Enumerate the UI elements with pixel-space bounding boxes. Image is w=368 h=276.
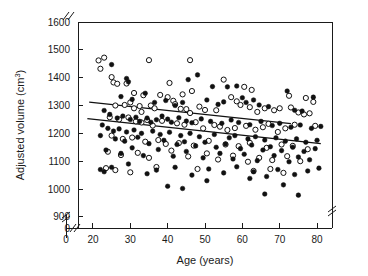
data-point <box>294 137 299 142</box>
data-point <box>177 115 182 120</box>
data-point <box>106 126 111 131</box>
data-point <box>98 133 103 138</box>
data-point <box>216 102 221 107</box>
x-tick-label: 60 <box>237 234 249 245</box>
data-point <box>281 183 286 188</box>
data-point <box>206 167 211 172</box>
y-tick-label: 1100 <box>48 156 70 167</box>
chart-canvas: 09001000110012001300140015001600 0203040… <box>0 0 368 276</box>
data-point <box>169 120 174 125</box>
data-point <box>165 184 170 189</box>
y-tick-label: 0 <box>64 223 70 234</box>
data-point <box>221 171 226 176</box>
data-point <box>109 165 114 170</box>
data-point <box>190 173 195 178</box>
data-point <box>111 129 116 134</box>
data-point <box>135 150 140 155</box>
data-point <box>130 97 135 102</box>
data-point <box>130 146 135 151</box>
data-point <box>199 117 204 122</box>
y-axis-title-base: Adjusted volume (cm <box>14 78 26 181</box>
y-tick-label: 1600 <box>48 17 71 28</box>
y-tick-label: 900 <box>53 211 70 222</box>
data-point <box>255 158 260 163</box>
data-point <box>201 156 206 161</box>
data-point <box>255 109 260 114</box>
y-tick-label: 1400 <box>48 72 71 83</box>
data-point <box>128 117 133 122</box>
x-tick-label: 70 <box>274 234 286 245</box>
data-point <box>182 139 187 144</box>
data-point <box>156 147 161 152</box>
data-point <box>285 154 290 159</box>
data-point <box>233 133 238 138</box>
data-point <box>249 143 254 148</box>
data-point <box>268 166 273 171</box>
data-point <box>167 80 172 85</box>
y-tick-label: 1000 <box>48 184 71 195</box>
data-point <box>220 121 225 126</box>
data-point <box>276 167 281 172</box>
data-point <box>146 155 151 160</box>
data-point <box>150 129 155 134</box>
data-point <box>234 84 239 89</box>
data-point <box>98 66 103 71</box>
x-tick-label: 80 <box>311 234 323 245</box>
data-point <box>305 169 310 174</box>
data-point <box>149 120 154 125</box>
data-point <box>221 77 226 82</box>
data-point <box>180 92 185 97</box>
data-point <box>109 62 114 67</box>
data-point <box>102 169 107 174</box>
data-point <box>304 140 309 145</box>
data-point <box>242 84 247 89</box>
data-point <box>160 114 165 119</box>
y-tick-label: 1500 <box>48 44 71 55</box>
data-point <box>290 145 295 150</box>
data-point <box>122 139 127 144</box>
y-tick-label: 1300 <box>48 100 71 111</box>
data-point <box>173 103 178 108</box>
x-axis-title: Age (years) <box>177 254 234 266</box>
data-point <box>253 127 258 132</box>
x-tick-label: 20 <box>87 234 99 245</box>
data-point <box>262 192 267 197</box>
data-point <box>281 170 286 175</box>
data-point <box>189 88 194 93</box>
data-point <box>277 121 282 126</box>
data-point <box>292 108 297 113</box>
data-point <box>311 95 316 100</box>
data-point <box>210 84 215 89</box>
data-point <box>261 148 266 153</box>
data-point <box>289 125 294 130</box>
data-point <box>285 89 290 94</box>
data-point <box>214 108 219 113</box>
data-point <box>109 75 114 80</box>
data-point <box>236 120 241 125</box>
data-point <box>317 166 322 171</box>
data-point <box>180 100 185 105</box>
data-point <box>174 121 179 126</box>
data-point <box>131 90 136 95</box>
data-point <box>193 144 198 149</box>
data-point <box>152 106 157 111</box>
data-point <box>248 176 253 181</box>
data-point <box>212 132 217 137</box>
data-point <box>287 159 292 164</box>
data-point <box>204 151 209 156</box>
data-point <box>132 128 137 133</box>
data-point <box>315 138 320 143</box>
data-point <box>186 154 191 159</box>
data-point <box>119 94 124 99</box>
data-point <box>251 98 256 103</box>
data-point <box>274 136 279 141</box>
data-point <box>180 186 185 191</box>
data-point <box>279 148 284 153</box>
data-point <box>117 127 122 132</box>
data-point <box>184 149 189 154</box>
y-axis-title-tail: ) <box>14 70 26 74</box>
data-point <box>307 111 312 116</box>
data-point <box>238 102 243 107</box>
data-point <box>244 100 249 105</box>
data-point <box>122 102 127 107</box>
